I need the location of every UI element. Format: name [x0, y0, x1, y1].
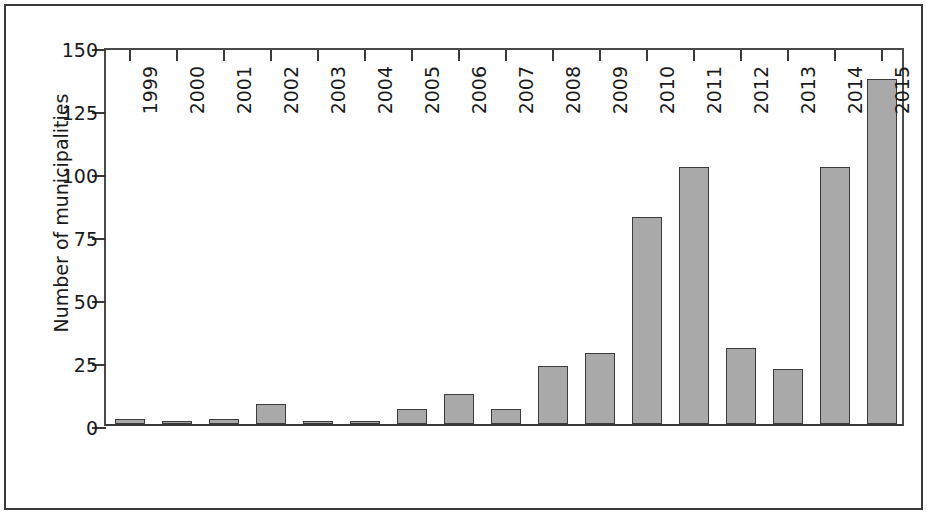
- bar: [491, 409, 521, 424]
- bar: [256, 404, 286, 424]
- x-tick-mark: [270, 50, 272, 61]
- y-tick-label: 100: [62, 165, 98, 187]
- bar: [303, 421, 333, 424]
- x-tick-mark: [599, 50, 601, 61]
- x-tick-mark: [552, 50, 554, 61]
- x-tick-mark: [646, 50, 648, 61]
- bar: [773, 369, 803, 424]
- bar: [162, 421, 192, 424]
- x-tick-label: 2014: [844, 66, 866, 114]
- x-tick-label: 2012: [750, 66, 772, 114]
- bar: [209, 419, 239, 424]
- bar: [350, 421, 380, 424]
- x-tick-label: 2011: [703, 66, 725, 114]
- x-tick-mark: [693, 50, 695, 61]
- x-tick-mark: [834, 50, 836, 61]
- bar: [115, 419, 145, 424]
- x-tick-mark: [364, 50, 366, 61]
- y-tick-label: 75: [74, 228, 98, 250]
- x-tick-mark: [411, 50, 413, 61]
- x-tick-label: 2003: [327, 66, 349, 114]
- x-tick-mark: [129, 50, 131, 61]
- x-tick-label: 2008: [562, 66, 584, 114]
- y-tick-label: 50: [74, 291, 98, 313]
- bar: [679, 167, 709, 424]
- bar: [538, 366, 568, 424]
- bar: [632, 217, 662, 424]
- x-tick-label: 2004: [374, 66, 396, 114]
- x-tick-label: 2010: [656, 66, 678, 114]
- y-tick-label: 150: [62, 39, 98, 61]
- x-tick-mark: [317, 50, 319, 61]
- x-tick-mark: [881, 50, 883, 61]
- bar: [397, 409, 427, 424]
- x-tick-label: 2015: [891, 66, 913, 114]
- bar: [726, 348, 756, 424]
- y-tick-label: 0: [86, 417, 98, 439]
- x-tick-label: 2001: [233, 66, 255, 114]
- x-tick-label: 2002: [280, 66, 302, 114]
- x-tick-mark: [176, 50, 178, 61]
- x-tick-label: 2009: [609, 66, 631, 114]
- x-tick-label: 2006: [468, 66, 490, 114]
- x-tick-mark: [458, 50, 460, 61]
- figure-frame: Number of municipalities 025507510012515…: [4, 4, 923, 510]
- y-tick-label: 125: [62, 102, 98, 124]
- y-tick-label: 25: [74, 354, 98, 376]
- x-tick-mark: [223, 50, 225, 61]
- bar: [585, 353, 615, 424]
- bar: [867, 79, 897, 424]
- x-tick-mark: [505, 50, 507, 61]
- chart-page: Number of municipalities 025507510012515…: [0, 0, 927, 514]
- plot-area: 0255075100125150 19992000200120022003200…: [104, 48, 904, 426]
- x-tick-label: 2007: [515, 66, 537, 114]
- x-tick-mark: [740, 50, 742, 61]
- x-tick-label: 2005: [421, 66, 443, 114]
- x-tick-mark: [787, 50, 789, 61]
- x-tick-label: 2000: [186, 66, 208, 114]
- bar: [820, 167, 850, 424]
- x-tick-label: 1999: [139, 66, 161, 114]
- x-tick-label: 2013: [797, 66, 819, 114]
- bar: [444, 394, 474, 424]
